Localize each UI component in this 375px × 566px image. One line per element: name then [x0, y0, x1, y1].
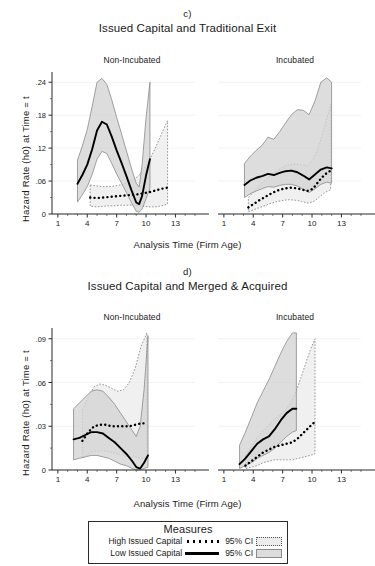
- svg-text:13: 13: [171, 475, 180, 484]
- svg-text:10: 10: [142, 219, 151, 228]
- panel-d-subpanel-label-incubated: Incubated: [240, 312, 350, 322]
- svg-text:7: 7: [280, 219, 285, 228]
- svg-text:.06: .06: [36, 177, 46, 186]
- svg-text:.09: .09: [36, 335, 46, 344]
- panel-d: d) Issued Capital and Merged & Acquired …: [0, 258, 375, 508]
- svg-text:13: 13: [337, 219, 346, 228]
- panel-c-letter: c): [0, 8, 375, 19]
- legend-line-dotted-icon: [185, 536, 219, 546]
- legend: Measures High Issued Capital 95% CI Low …: [88, 521, 288, 564]
- svg-text:.24: .24: [36, 78, 46, 87]
- panel-d-subpanel-label-non-incubated: Non-Incubated: [72, 312, 192, 322]
- panel-d-letter: d): [0, 266, 375, 277]
- legend-label-low-issued-capital: Low Issued Capital: [110, 548, 182, 558]
- svg-text:7: 7: [280, 475, 285, 484]
- figure-root: c) Issued Capital and Traditional Exit N…: [0, 0, 375, 566]
- legend-label-high-issued-capital: High Issued Capital: [108, 536, 182, 546]
- svg-text:4: 4: [251, 219, 256, 228]
- svg-text:4: 4: [251, 475, 256, 484]
- svg-text:4: 4: [85, 475, 90, 484]
- legend-row-low: Low Issued Capital 95% CI: [89, 547, 287, 559]
- svg-text:1: 1: [56, 219, 61, 228]
- panel-c: c) Issued Capital and Traditional Exit N…: [0, 0, 375, 258]
- svg-text:7: 7: [114, 475, 119, 484]
- panel-d-title: Issued Capital and Merged & Acquired: [0, 280, 375, 292]
- svg-text:7: 7: [114, 219, 119, 228]
- panel-c-subpanel-label-non-incubated: Non-Incubated: [72, 55, 192, 65]
- svg-text:10: 10: [308, 475, 317, 484]
- panel-c-title: Issued Capital and Traditional Exit: [0, 22, 375, 34]
- svg-text:1: 1: [56, 475, 61, 484]
- legend-ci-swatch-low-icon: [256, 549, 282, 558]
- svg-text:10: 10: [308, 219, 317, 228]
- svg-text:1: 1: [222, 475, 227, 484]
- legend-title: Measures: [89, 523, 287, 535]
- svg-text:.06: .06: [36, 379, 46, 388]
- svg-text:4: 4: [85, 219, 90, 228]
- svg-text:0: 0: [42, 210, 46, 219]
- svg-text:1: 1: [222, 219, 227, 228]
- svg-text:0: 0: [42, 466, 46, 475]
- svg-text:13: 13: [171, 219, 180, 228]
- panel-c-plot-area: 14710130.06.12.18.241471013: [0, 68, 375, 248]
- svg-text:13: 13: [337, 475, 346, 484]
- legend-line-solid-icon: [185, 548, 219, 558]
- svg-text:10: 10: [142, 475, 151, 484]
- panel-c-subpanel-label-incubated: Incubated: [240, 55, 350, 65]
- legend-row-high: High Issued Capital 95% CI: [89, 535, 287, 547]
- legend-ci-swatch-high-icon: [256, 537, 282, 546]
- svg-text:.03: .03: [36, 422, 46, 431]
- panel-d-plot-area: 14710130.03.06.091471013: [0, 324, 375, 504]
- legend-label-ci-high: 95% CI: [225, 536, 253, 546]
- legend-label-ci-low: 95% CI: [225, 548, 253, 558]
- svg-text:.18: .18: [36, 111, 46, 120]
- svg-text:.12: .12: [36, 144, 46, 153]
